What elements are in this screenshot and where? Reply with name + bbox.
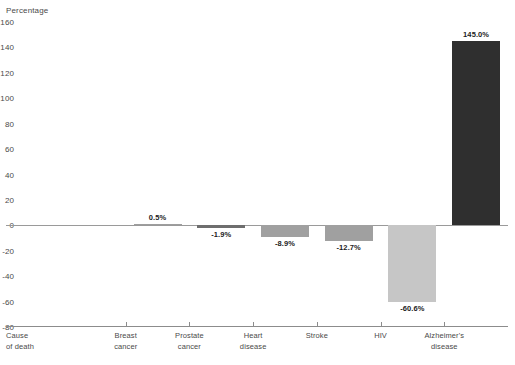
bar-group: -60.6% [381, 22, 445, 327]
x-axis-category-label: Prostate cancer [158, 331, 222, 352]
x-axis-category-label: Cause of death [6, 331, 62, 352]
x-axis-category-label: Alzheimer's disease [412, 331, 476, 352]
x-axis-category-label: Heart disease [221, 331, 285, 352]
bar[interactable] [261, 225, 309, 236]
x-axis-category-labels: Cause of deathBreast cancerProstate canc… [0, 331, 515, 365]
bar-group: 0.5% [126, 22, 190, 327]
bar-group [62, 22, 126, 327]
bar-value-label: -12.7% [337, 243, 361, 252]
y-axis-tick-label: 80 [5, 119, 14, 128]
bar-chart: Percentage 160140120100806040200-20-40-6… [0, 0, 515, 365]
y-axis-tick-label: -40 [2, 272, 14, 281]
bar[interactable] [134, 224, 182, 226]
bar-group: -1.9% [189, 22, 253, 327]
x-axis-category-label: Breast cancer [94, 331, 158, 352]
bar[interactable] [197, 225, 245, 227]
x-axis-category-label: Stroke [285, 331, 349, 342]
y-axis-tick-label: 140 [0, 43, 14, 52]
bar-group: -8.9% [253, 22, 317, 327]
y-axis-tick-label: 40 [5, 170, 14, 179]
y-axis-tick-label: 100 [0, 94, 14, 103]
y-axis-tick-label: 160 [0, 18, 14, 27]
bar-group: 145.0% [444, 22, 508, 327]
y-axis-tick-label: 60 [5, 145, 14, 154]
y-axis-tick-label: -20 [2, 246, 14, 255]
y-axis-tick-label: 20 [5, 195, 14, 204]
bar[interactable] [325, 225, 373, 241]
bar-value-label: -1.9% [211, 230, 231, 239]
x-axis-category-label: HIV [349, 331, 413, 342]
plot-area: 0.5%-1.9%-8.9%-12.7%-60.6%145.0% [62, 22, 508, 327]
bar-value-label: 0.5% [149, 213, 167, 222]
y-axis-tick-labels: 160140120100806040200-20-40-60-80 [0, 0, 62, 365]
bar-value-label: -8.9% [275, 239, 295, 248]
bar-value-label: -60.6% [400, 304, 424, 313]
y-axis-tick-label: 120 [0, 68, 14, 77]
bar-value-label: 145.0% [463, 30, 489, 39]
bar[interactable] [388, 225, 436, 302]
y-axis-tick-label: -60 [2, 297, 14, 306]
bar-group: -12.7% [317, 22, 381, 327]
bar[interactable] [452, 41, 500, 225]
